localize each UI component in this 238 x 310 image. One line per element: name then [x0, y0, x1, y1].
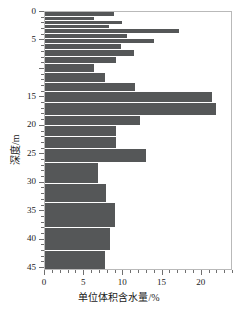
bar [45, 25, 109, 28]
y-tick-minor [41, 28, 44, 29]
x-axis-title: 单位体积含水量/% [0, 292, 238, 303]
x-tick-major [162, 270, 163, 275]
x-tick-minor [216, 270, 217, 273]
y-tick-minor [41, 187, 44, 188]
bar [45, 21, 122, 24]
bar [45, 17, 94, 20]
y-tick-minor [41, 159, 44, 160]
x-tick-label: 15 [150, 278, 174, 287]
y-tick-major [39, 210, 44, 211]
x-tick-minor [193, 270, 194, 273]
y-tick-minor [41, 74, 44, 75]
y-tick-major [39, 182, 44, 183]
x-tick-minor [177, 270, 178, 273]
chart-figure: 0515202530354045 05101520 单位体积含水量/% 深度/m [0, 0, 238, 310]
bar [45, 149, 146, 162]
y-tick-minor [41, 176, 44, 177]
y-tick-major [39, 68, 44, 69]
y-tick-label: 0 [14, 7, 36, 16]
bar [45, 73, 105, 82]
y-tick-label: 20 [14, 120, 36, 129]
y-tick-minor [41, 79, 44, 80]
bar [45, 44, 121, 49]
x-tick-major [83, 270, 84, 275]
y-tick-minor [41, 51, 44, 52]
x-tick-label: 0 [32, 278, 56, 287]
y-tick-minor [41, 45, 44, 46]
y-tick-major [39, 96, 44, 97]
y-tick-minor [41, 136, 44, 137]
x-tick-label: 10 [110, 278, 134, 287]
plot-area [44, 11, 232, 270]
y-tick-major [39, 239, 44, 240]
x-tick-minor [99, 270, 100, 273]
x-tick-minor [75, 270, 76, 273]
bar [45, 137, 116, 147]
y-tick-minor [41, 233, 44, 234]
x-tick-major [122, 270, 123, 275]
bar [45, 184, 106, 201]
x-tick-minor [91, 270, 92, 273]
y-tick-minor [41, 113, 44, 114]
x-tick-minor [130, 270, 131, 273]
x-tick-minor [169, 270, 170, 273]
y-tick-label: 5 [14, 35, 36, 44]
y-tick-major [39, 39, 44, 40]
y-tick-major [39, 11, 44, 12]
y-tick-label: 30 [14, 177, 36, 186]
bar [45, 228, 110, 250]
bar [45, 50, 134, 56]
y-tick-label: 45 [14, 263, 36, 272]
bar [45, 203, 115, 228]
x-tick-label: 20 [189, 278, 213, 287]
y-tick-minor [41, 170, 44, 171]
bar [45, 57, 116, 63]
y-tick-minor [41, 244, 44, 245]
x-tick-minor [115, 270, 116, 273]
y-tick-major [39, 267, 44, 268]
bar [45, 34, 127, 38]
x-tick-minor [154, 270, 155, 273]
x-tick-minor [209, 270, 210, 273]
x-tick-label: 5 [71, 278, 95, 287]
y-tick-minor [41, 108, 44, 109]
y-axis-title: 深度/m [10, 134, 21, 165]
y-tick-minor [41, 34, 44, 35]
y-tick-major [39, 125, 44, 126]
x-tick-minor [68, 270, 69, 273]
x-tick-major [201, 270, 202, 275]
x-tick-major [44, 270, 45, 275]
x-tick-minor [146, 270, 147, 273]
y-tick-minor [41, 119, 44, 120]
bar [45, 251, 105, 269]
y-tick-minor [41, 261, 44, 262]
x-tick-minor [138, 270, 139, 273]
bar-series [45, 12, 231, 269]
y-tick-minor [41, 250, 44, 251]
y-tick-minor [41, 131, 44, 132]
bar [45, 12, 114, 16]
y-tick-label: 15 [14, 92, 36, 101]
y-tick-minor [41, 165, 44, 166]
y-tick-minor [41, 57, 44, 58]
bar [45, 39, 154, 43]
bar [45, 64, 94, 72]
y-tick-minor [41, 222, 44, 223]
y-tick-minor [41, 216, 44, 217]
x-tick-minor [60, 270, 61, 273]
bar [45, 29, 179, 33]
y-tick-minor [41, 85, 44, 86]
bar [45, 163, 98, 184]
x-tick-minor [107, 270, 108, 273]
y-tick-label: 40 [14, 234, 36, 243]
y-tick-minor [41, 256, 44, 257]
bar [45, 83, 135, 91]
y-tick-minor [41, 199, 44, 200]
x-tick-minor [224, 270, 225, 273]
x-tick-minor [52, 270, 53, 273]
y-tick-minor [41, 17, 44, 18]
y-tick-minor [41, 148, 44, 149]
y-tick-minor [41, 227, 44, 228]
bar [45, 116, 140, 125]
y-tick-major [39, 153, 44, 154]
